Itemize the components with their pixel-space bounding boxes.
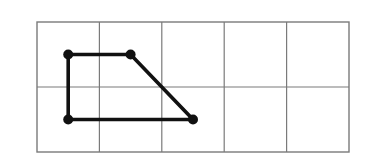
vertex-dot-bottom-right: [188, 115, 198, 125]
vertex-dot-top-left: [63, 50, 73, 60]
vertex-dot-bottom-left: [63, 115, 73, 125]
vertex-dot-top-right: [126, 50, 136, 60]
grid-diagram: [0, 0, 370, 161]
square-grid: [37, 22, 349, 152]
